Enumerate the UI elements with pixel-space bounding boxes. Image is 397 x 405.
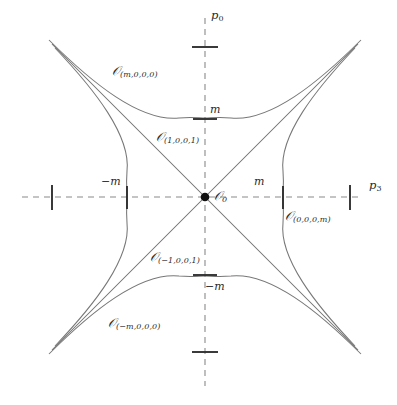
tick-label-p3-m: m (254, 176, 264, 187)
momentum-space-orbit-figure: p0 p3 m −m m −m 𝒪0 𝒪(m,0,0,0) 𝒪(1,0,0,1)… (0, 0, 397, 405)
orbit-label-spacelike-cal: 𝒪 (285, 208, 293, 223)
axis-label-p3: p3 (369, 180, 382, 193)
tick-label-p0-minus-m: −m (205, 281, 225, 292)
orbit-label-timelike-future-cal: 𝒪 (112, 63, 120, 78)
orbit-label-lightlike-past: 𝒪(−1,0,0,1) (150, 251, 200, 265)
origin-label-cal: 𝒪 (214, 188, 222, 203)
orbit-label-timelike-past-cal: 𝒪 (108, 315, 116, 330)
origin-label-subscript: 0 (222, 195, 227, 204)
orbit-label-lightlike-past-sub: (−1,0,0,1) (158, 256, 200, 265)
origin-label: 𝒪0 (214, 190, 227, 204)
axis-label-p0: p0 (211, 10, 224, 23)
orbit-label-timelike-future: 𝒪(m,0,0,0) (112, 65, 158, 79)
figure-canvas (0, 0, 397, 405)
orbit-label-timelike-past-sub: (−m,0,0,0) (116, 322, 160, 331)
orbit-label-spacelike: 𝒪(0,0,0,m) (285, 210, 331, 224)
orbit-label-lightlike-future: 𝒪(1,0,0,1) (156, 131, 199, 145)
orbit-label-lightlike-future-sub: (1,0,0,1) (164, 136, 199, 145)
orbit-label-lightlike-past-cal: 𝒪 (150, 249, 158, 264)
tick-label-p3-minus-m: −m (101, 176, 121, 187)
axis-label-p3-subscript: 3 (376, 184, 381, 193)
orbit-label-timelike-future-sub: (m,0,0,0) (120, 70, 158, 79)
origin-dot (201, 193, 210, 202)
orbit-label-spacelike-sub: (0,0,0,m) (293, 215, 331, 224)
tick-label-p0-m: m (210, 104, 220, 115)
orbit-label-lightlike-future-cal: 𝒪 (156, 129, 164, 144)
orbit-label-timelike-past: 𝒪(−m,0,0,0) (108, 317, 160, 331)
axis-label-p0-subscript: 0 (218, 14, 223, 23)
